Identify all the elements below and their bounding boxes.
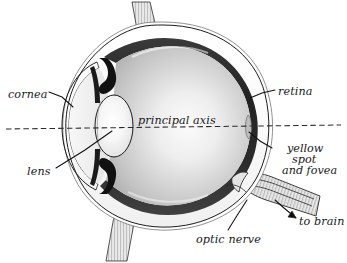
label-yellow-spot-line-3: and fovea xyxy=(282,164,337,177)
label-yellow-spot-and-fovea: yellow spot and fovea xyxy=(282,142,337,177)
label-to-brain: to brain xyxy=(299,215,345,228)
eye-cross-section-svg: cornea lens principal axis retina yellow… xyxy=(0,0,347,263)
label-lens: lens xyxy=(27,165,51,178)
yellow-spot-fovea xyxy=(245,115,251,139)
lens xyxy=(95,95,133,157)
eye-diagram: cornea lens principal axis retina yellow… xyxy=(0,0,347,263)
label-retina: retina xyxy=(278,85,313,98)
label-principal-axis: principal axis xyxy=(138,114,216,127)
label-cornea: cornea xyxy=(8,88,47,101)
label-optic-nerve: optic nerve xyxy=(196,233,261,246)
